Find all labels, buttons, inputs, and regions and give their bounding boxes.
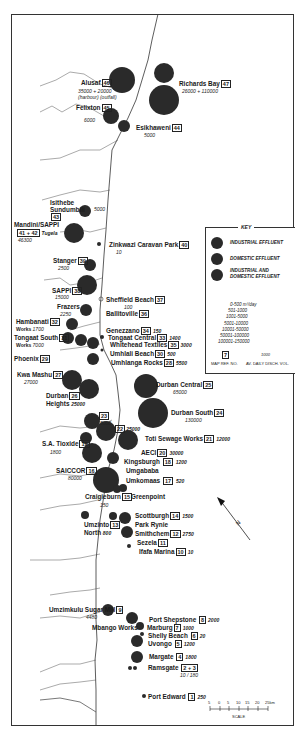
key-combined-label: INDUSTRIAL AND DOMESTIC EFFLUENT bbox=[230, 268, 290, 279]
site-label-sezela: Sezela11 bbox=[137, 539, 168, 547]
scale-tick: 5 bbox=[208, 700, 210, 705]
site-volume-zinkwazi: 10 bbox=[116, 249, 122, 255]
scale-tick: 25km bbox=[265, 700, 275, 705]
site-volume-sappi: 15000 bbox=[55, 294, 69, 300]
site-label-umgababa: Umgababa bbox=[126, 467, 159, 474]
site-label-sheffield-beach: Sheffield Beach37 bbox=[106, 296, 165, 304]
site-volume-ramsgate: 10 / 180 bbox=[180, 672, 198, 678]
site-ref-mandini-sappi: 41 + 42Tugela bbox=[16, 229, 58, 237]
site-label-kwa-mashu: Kwa Mashu27 bbox=[17, 371, 63, 379]
scale-label: SCALE bbox=[232, 714, 245, 719]
site-volume-durban-south: 130000 bbox=[185, 417, 202, 423]
key-example-volume: 1000 bbox=[261, 352, 270, 357]
site-label-umhlanga-rocks: Umhlanga Rocks285500 bbox=[111, 359, 187, 367]
scale-tick: 15 bbox=[245, 700, 249, 705]
site-label-isithebe: Isithebe Sundumbili43 bbox=[50, 199, 90, 221]
site-label-umhlali-beach: Umhlali Beach30500 bbox=[110, 350, 176, 358]
site-volume-tongaat-south: Works 7000 bbox=[16, 342, 44, 348]
combined-effluent-swatch bbox=[211, 269, 223, 281]
site-label-stanger: Stanger39 bbox=[53, 257, 88, 265]
site-label-umzimkulu-sugar-mill: Umzimkulu Sugar Mill9 bbox=[49, 606, 123, 614]
key-range-5: 50001-100000 bbox=[220, 333, 249, 338]
site-volume-mandini-sappi: 46300 bbox=[18, 237, 32, 243]
key-ref-caption: MAP REF. NO. bbox=[211, 361, 238, 366]
site-label-aeci: AECI2030000 bbox=[141, 449, 183, 457]
site-label-richards-bay: Richards Bay47 bbox=[179, 80, 231, 88]
site-label-zinkwazi: Zinkwazi Caravan Park40 bbox=[109, 241, 189, 249]
key-example-ref: 7 bbox=[221, 351, 229, 359]
site-label-scottburgh: Scottburgh141500 bbox=[135, 512, 193, 520]
key-title: KEY bbox=[238, 224, 254, 230]
site-note-alusaf: (harbour) (outfall) bbox=[78, 94, 117, 100]
site-volume-stanger: 2500 bbox=[58, 265, 69, 271]
site-label-saiccor: SAICCOR16 bbox=[56, 467, 97, 475]
site-volume-isithebe: 5000 bbox=[94, 206, 105, 212]
site-label-frazers: Frazers bbox=[57, 303, 80, 310]
site-label-craigieburn: Craigieburn15 bbox=[85, 493, 132, 501]
site-label-port-shepstone: Port Shepstone 82000 bbox=[149, 616, 219, 624]
scale-tick: 20 bbox=[255, 700, 259, 705]
site-label-umkomaas: Umkomaas 17520 bbox=[126, 477, 184, 485]
site-label-durban-heights: Durban26 bbox=[46, 392, 80, 400]
site-volume-durban-central: 65000 bbox=[173, 389, 187, 395]
site-label-sa-tioxide: S.A. Tioxide19 bbox=[42, 440, 90, 448]
site-label-margate: Margate 41800 bbox=[149, 653, 196, 661]
site-volume-frazers: 2250 bbox=[60, 311, 71, 317]
scale-tick: 5 bbox=[227, 700, 229, 705]
site-label-marburg: Marburg71000 bbox=[147, 624, 194, 632]
key-vol-caption: AV. DAILY DISCH. VOL. bbox=[246, 361, 289, 366]
key-range-0: 0-500 m³/day bbox=[230, 302, 257, 307]
key-range-2: 1001-5000 bbox=[226, 314, 248, 319]
site-label-toti-sewage-works: Toti Sewage Works2112000 bbox=[145, 435, 230, 443]
key-range-1: 501-1000 bbox=[228, 308, 247, 313]
site-label-durban-south: Durban South24 bbox=[171, 409, 224, 417]
site-label-greenpoint: Greenpoint bbox=[131, 493, 165, 500]
site-volume-umzimkulu: 4480 bbox=[86, 614, 97, 620]
site-label-uvongo: Uvongo 51200 bbox=[148, 640, 195, 648]
site-volume-esikhaweni: 5000 bbox=[144, 132, 155, 138]
key-range-4: 10001-50000 bbox=[222, 327, 249, 332]
site-ref-23: 23 bbox=[98, 412, 109, 420]
site-label-esikhaweni: Esikhaweni44 bbox=[136, 124, 182, 132]
site-label-hambanati: Hambanati32 bbox=[16, 318, 60, 326]
site-label-durban-heights-2: Heights 25000 bbox=[46, 400, 85, 407]
site-label-whitehead-textiles: Whitehead Textiles353000 bbox=[110, 341, 192, 349]
site-volume-hambanati: Works 1700 bbox=[16, 326, 44, 332]
scale-tick: 0 bbox=[218, 700, 220, 705]
site-label-port-edward: Port Edward 1250 bbox=[148, 693, 206, 701]
site-label-mandini-sappi: Mandini/SAPPI bbox=[14, 221, 59, 228]
site-ref-22: 2225000 bbox=[114, 425, 140, 433]
site-label-alusaf: Alusaf46 bbox=[81, 79, 112, 87]
key-range-3: 5001-10000 bbox=[224, 321, 248, 326]
industrial-effluent-swatch bbox=[211, 237, 223, 249]
site-label-ifafa-marina: Ifafa Marina1010 bbox=[139, 548, 193, 556]
map-key: KEY INDUSTRIAL EFFLUENT DOMESTIC EFFLUEN… bbox=[205, 227, 295, 374]
domestic-effluent-swatch bbox=[211, 253, 223, 265]
site-label-umzinto-north: Umzinto13 bbox=[84, 521, 120, 529]
site-label-felixton: Felixton45 bbox=[76, 104, 112, 112]
scale-tick: 10 bbox=[236, 700, 240, 705]
site-label-mbango-works: Mbango Works bbox=[92, 624, 138, 631]
site-label-durban-central: Durban Central25 bbox=[156, 381, 213, 389]
site-volume-kwa-mashu: 27000 bbox=[24, 379, 38, 385]
site-label-ramsgate: Ramsgate 2 + 3 bbox=[148, 664, 198, 672]
site-volume-saiccor: 80000 bbox=[68, 475, 82, 481]
site-label-smithchem: Smithchem122750 bbox=[135, 530, 194, 538]
site-label-umzinto-north-2: North 800 bbox=[84, 529, 111, 536]
site-volume-23: 5000 bbox=[100, 420, 111, 426]
key-range-6: 100001-150000 bbox=[218, 339, 250, 344]
site-volume-richards-bay: 26000 + 110000 bbox=[182, 88, 218, 94]
site-label-kingsburgh: Kingsburgh 181200 bbox=[124, 458, 187, 466]
site-label-park-rynie: Park Rynie bbox=[135, 521, 168, 528]
site-volume-sa-tioxide: 1800 bbox=[50, 449, 61, 455]
site-label-shelly-beach: Shelly Beach 620 bbox=[148, 632, 205, 640]
key-domestic-label: DOMESTIC EFFLUENT bbox=[230, 256, 280, 262]
key-industrial-label: INDUSTRIAL EFFLUENT bbox=[230, 240, 283, 246]
site-label-ballitoville: Ballitoville36 bbox=[106, 310, 149, 318]
site-label-tongaat-south: Tongaat South31 bbox=[14, 334, 69, 342]
site-volume-craigieburn: 150 bbox=[100, 502, 108, 508]
site-label-phoenix: Phoenix29 bbox=[14, 355, 50, 363]
site-volume-felixton: 6000 bbox=[84, 117, 95, 123]
